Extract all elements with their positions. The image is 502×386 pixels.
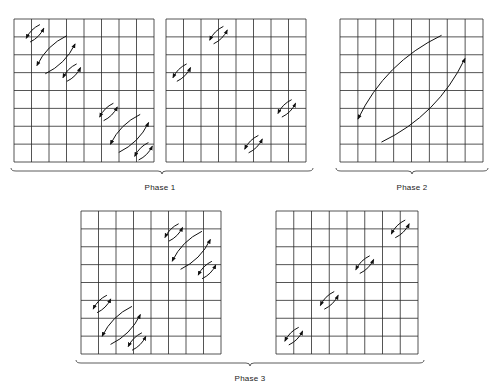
swap-arrow-icon bbox=[111, 315, 141, 345]
phase-1-label: Phase 1 bbox=[145, 183, 176, 192]
swap-arrow-icon bbox=[119, 123, 149, 153]
grid-phase1-a bbox=[14, 19, 154, 162]
grid-phase3-b bbox=[276, 211, 418, 354]
brace-phase3 bbox=[76, 360, 424, 366]
swap-arrow-icon bbox=[45, 44, 75, 74]
brace-phase2 bbox=[336, 168, 488, 174]
grid-phase1-b bbox=[166, 19, 306, 162]
grid-phase2 bbox=[340, 19, 483, 162]
grid-phase3-a bbox=[81, 211, 221, 354]
phase-2-label: Phase 2 bbox=[397, 183, 428, 192]
swap-arrow-icon bbox=[37, 36, 67, 66]
phase-3-label: Phase 3 bbox=[235, 374, 266, 383]
swap-arrow-icon bbox=[110, 114, 140, 144]
swap-arrow-icon bbox=[102, 306, 132, 336]
brace-phase1 bbox=[11, 168, 313, 174]
phase-diagram bbox=[0, 0, 502, 386]
